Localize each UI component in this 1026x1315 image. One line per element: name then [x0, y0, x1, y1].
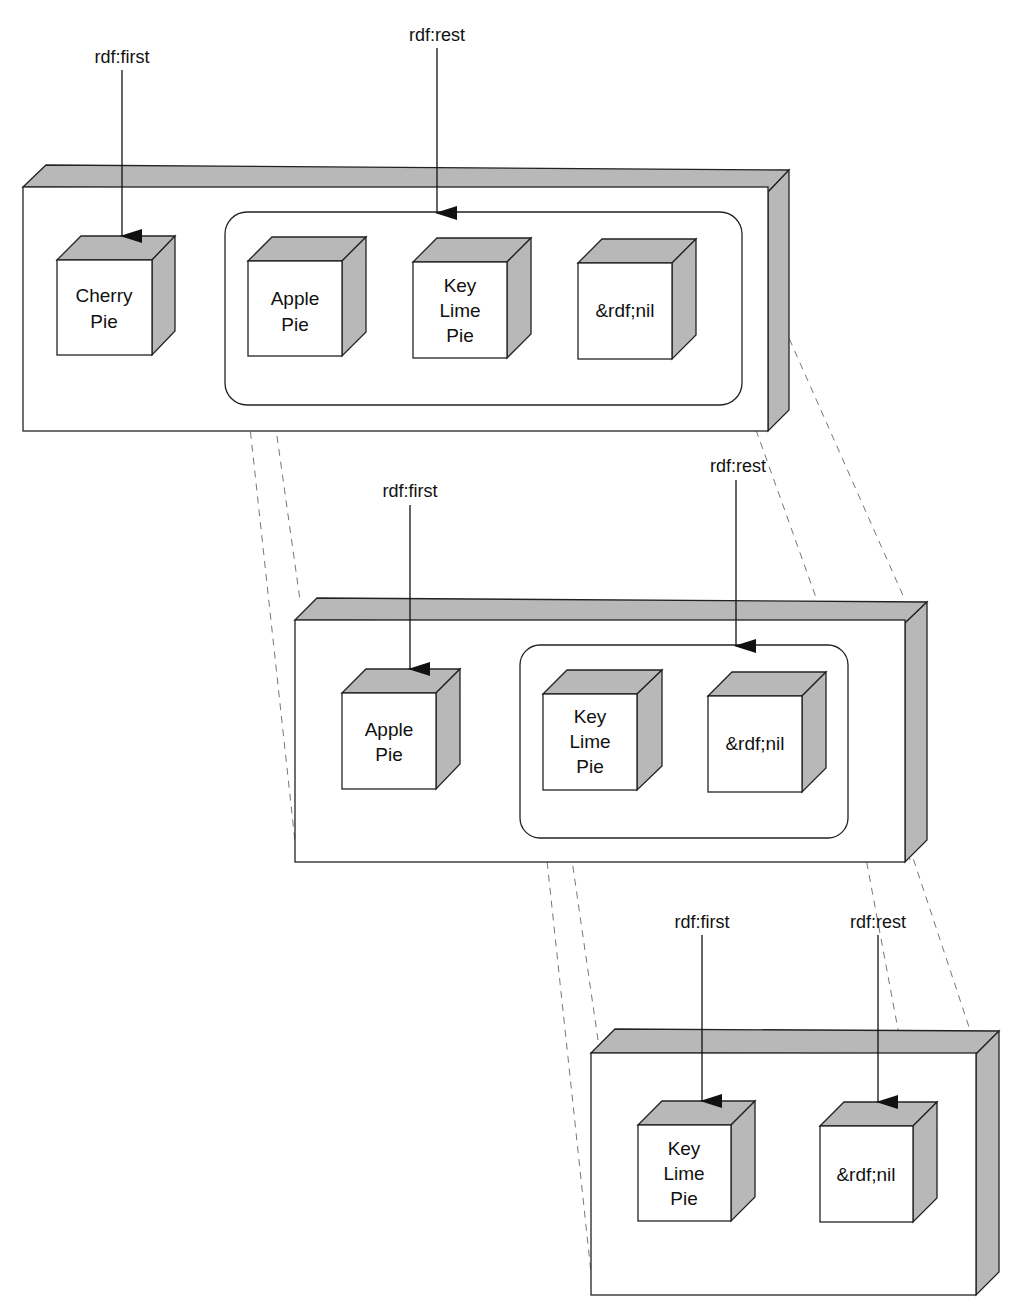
- cube-label-line2: Lime: [663, 1163, 704, 1184]
- cube-rest-item[interactable]: &rdf;nil: [820, 1102, 937, 1222]
- cube-label-line1: Key: [574, 706, 607, 727]
- cube-label-line2: Pie: [281, 314, 308, 335]
- container-top-face: [295, 598, 927, 623]
- container-side-face: [905, 602, 927, 862]
- cube-rest-item[interactable]: Apple Pie: [248, 237, 366, 356]
- cube-label-line1: &rdf;nil: [595, 300, 654, 321]
- rdf-rest-label: rdf:rest: [710, 456, 766, 476]
- cube-rest-item[interactable]: &rdf;nil: [578, 239, 696, 359]
- cube-label-line2: Lime: [439, 300, 480, 321]
- cube-rest-item[interactable]: Key Lime Pie: [413, 238, 531, 358]
- cube-label-line1: &rdf;nil: [725, 733, 784, 754]
- cube-label-line2: Lime: [569, 731, 610, 752]
- cube-label-line1: Apple: [365, 719, 414, 740]
- rdf-rest-label: rdf:rest: [850, 912, 906, 932]
- list-level-3: Key Lime Pie &rdf;nil rdf:first rdf:rest: [591, 912, 999, 1295]
- container-side-face: [768, 170, 789, 431]
- cube-label-line2: Pie: [375, 744, 402, 765]
- container-top-face: [591, 1029, 999, 1054]
- cube-first-item[interactable]: Key Lime Pie: [638, 1101, 755, 1221]
- cube-label-line3: Pie: [670, 1188, 697, 1209]
- rdf-first-label: rdf:first: [94, 47, 149, 67]
- cube-first-item[interactable]: Cherry Pie: [57, 236, 175, 355]
- cube-label-line1: Key: [668, 1138, 701, 1159]
- cube-rest-item[interactable]: Key Lime Pie: [543, 670, 662, 790]
- container-side-face: [976, 1031, 999, 1295]
- rdf-first-label: rdf:first: [674, 912, 729, 932]
- rdf-rest-label: rdf:rest: [409, 25, 465, 45]
- diagram-canvas: Cherry Pie Apple Pie Key Lime Pie &rdf;n…: [0, 0, 1026, 1315]
- cube-label-line1: Key: [444, 275, 477, 296]
- cube-label-line2: Pie: [90, 311, 117, 332]
- cube-first-item[interactable]: Apple Pie: [342, 669, 460, 789]
- cube-label-line1: &rdf;nil: [836, 1164, 895, 1185]
- list-level-2: Apple Pie Key Lime Pie &rdf;nil rdf:firs…: [295, 456, 927, 862]
- cube-label-line1: Apple: [271, 288, 320, 309]
- cube-label-line1: Cherry: [75, 285, 133, 306]
- rdf-first-label: rdf:first: [382, 481, 437, 501]
- list-level-1: Cherry Pie Apple Pie Key Lime Pie &rdf;n…: [23, 25, 789, 431]
- cube-label-line3: Pie: [576, 756, 603, 777]
- cube-label-line3: Pie: [446, 325, 473, 346]
- cube-rest-item[interactable]: &rdf;nil: [708, 672, 826, 792]
